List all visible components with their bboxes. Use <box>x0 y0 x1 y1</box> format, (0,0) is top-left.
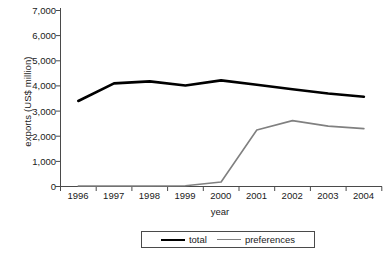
x-tick-label: 1998 <box>139 190 160 201</box>
series-line-preferences <box>78 121 364 186</box>
x-tick-label: 2004 <box>353 190 374 201</box>
legend-swatch-preferences-icon <box>217 239 241 240</box>
x-tick-label: 2003 <box>317 190 338 201</box>
x-tick-label: 1997 <box>103 190 124 201</box>
chart-legend: total preferences <box>141 231 315 248</box>
x-tick-label: 2002 <box>282 190 303 201</box>
legend-label-total: total <box>189 234 207 245</box>
legend-swatch-total-icon <box>161 239 185 241</box>
legend-label-preferences: preferences <box>245 234 295 245</box>
x-tick-label: 1999 <box>175 190 196 201</box>
y-axis-ticks <box>56 11 61 187</box>
series-line-total <box>78 80 364 101</box>
legend-item-preferences: preferences <box>217 234 295 245</box>
x-tick-label: 2001 <box>246 190 267 201</box>
x-axis-title: year <box>55 206 385 217</box>
legend-item-total: total <box>161 234 207 245</box>
x-axis-tick-labels: 1996 1997 1998 1999 2000 2001 2002 2003 … <box>60 190 382 204</box>
x-tick-label: 2000 <box>210 190 231 201</box>
x-tick-label: 1996 <box>67 190 88 201</box>
exports-line-chart: exports (US$ million) 7,000 6,000 5,000 … <box>0 0 386 254</box>
